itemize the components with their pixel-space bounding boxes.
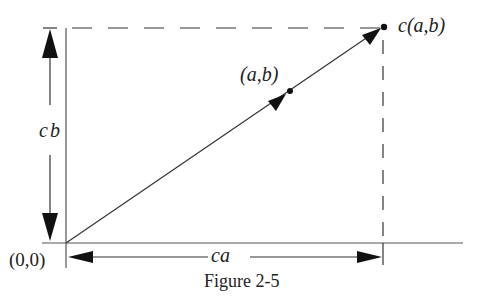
figure-caption: Figure 2-5 xyxy=(204,272,280,290)
point-ab xyxy=(287,88,293,94)
vector-cab-arrowhead xyxy=(362,28,381,45)
cb-arrow-up-head xyxy=(42,29,58,58)
label-vertical-length: cb xyxy=(39,120,62,140)
scaled-vector xyxy=(66,30,378,243)
vector-ab-arrowhead xyxy=(268,94,286,111)
label-origin: (0,0) xyxy=(9,250,45,269)
label-point-ab: (a,b) xyxy=(240,64,278,84)
label-scaled-point: c(a,b) xyxy=(398,15,445,35)
point-cab xyxy=(381,24,387,30)
vector-scaling-diagram xyxy=(0,0,481,299)
ca-arrow-right-head xyxy=(357,251,382,263)
ca-arrow-left-head xyxy=(68,251,93,263)
cb-arrow-down-head xyxy=(42,213,58,241)
label-horizontal-length: ca xyxy=(211,245,230,265)
